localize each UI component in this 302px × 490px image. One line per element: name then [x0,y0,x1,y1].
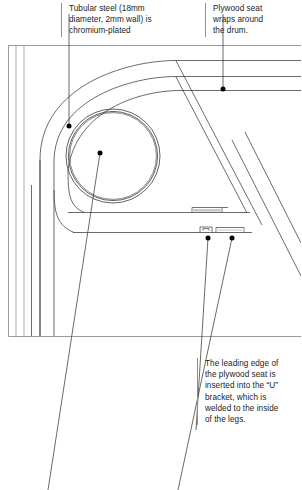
dot-bracket-a [206,236,211,241]
callout-line: welded to the inside [205,403,297,414]
callout-plywood-seat: Plywood seat wraps around the drum. [205,3,287,37]
dot-tubular-steel [67,124,72,129]
drawing-frame [9,46,302,337]
left-leg [32,160,41,336]
leader-drum-center [48,153,100,490]
callout-line: of the legs. [205,414,297,425]
seat-underside-band [68,61,301,225]
dot-drum-center [98,151,103,156]
callout-line: the drum. [213,25,287,36]
diagram-page: Tubular steel (18mm diameter, 2mm wall) … [0,0,301,490]
callout-line: bracket, which is [205,392,297,403]
callout-line: The leading edge of [205,358,297,369]
callout-line: the plywood seat is [205,369,297,380]
callout-line: Tubular steel (18mm [69,3,171,14]
callout-line: wraps around [213,14,287,25]
dot-bracket-b [230,236,235,241]
dot-plywood-seat [221,87,226,92]
seat-base-plate [54,170,252,233]
leader-dots [67,87,235,241]
callout-tubular-steel: Tubular steel (18mm diameter, 2mm wall) … [61,3,171,37]
callout-line: Plywood seat [213,3,287,14]
callout-leading-edge: The leading edge of the plywood seat is … [197,358,297,425]
steel-drum [66,109,160,203]
callout-line: chromium-plated [69,25,171,36]
callout-line: inserted into the “U” [205,380,297,391]
bottom-cropped-text-region [0,484,301,490]
construction-lines [16,46,24,336]
callout-line: diameter, 2mm wall) is [69,14,171,25]
